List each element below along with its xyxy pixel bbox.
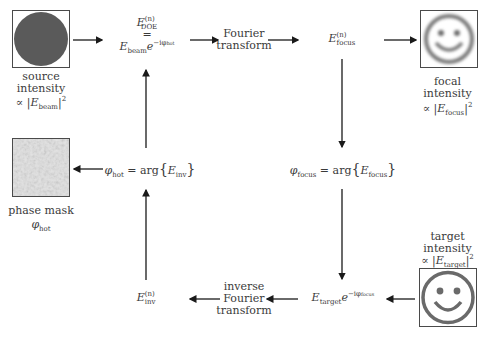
phase-mask-symbol: φhot [0, 219, 82, 231]
source-formula: ∝ |Ebeam|2 [0, 97, 82, 109]
focal-intensity-image [420, 10, 478, 68]
target-field-formula: Etargete−iφfocus [300, 292, 386, 304]
fourier-transform-label: Fourier transform [214, 28, 274, 52]
doe-rhs: Ebeame−iφhot [104, 41, 190, 53]
sharp-smiley-icon [420, 269, 476, 326]
phi-hot-formula: φhot = arg{Einv} [104, 163, 196, 177]
focal-formula: ∝ |Efocus|2 [408, 103, 487, 115]
target-intensity-image [419, 268, 477, 327]
phi-focus-formula: φfocus = arg{Efocus} [288, 163, 398, 177]
inverse-fourier-label: inverse Fourier transform [216, 281, 272, 317]
phase-mask-label: phase mask φhot [0, 205, 82, 231]
source-disc-icon [13, 11, 69, 67]
phase-mask-noise-icon [13, 139, 69, 196]
focus-field: E(n)focus [300, 33, 384, 45]
source-intensity-image [12, 10, 70, 68]
target-formula: ∝ |Etarget|2 [408, 255, 487, 267]
source-label: source intensity ∝ |Ebeam|2 [0, 71, 82, 109]
doe-field-formula: E(n)DOE = Ebeame−iφhot [104, 17, 190, 53]
phase-mask-image [12, 138, 70, 197]
source-label-line2: intensity [0, 83, 82, 95]
target-label: target intensity ∝ |Etarget|2 [408, 231, 487, 267]
inv-field: E(n)inv [120, 292, 172, 304]
blurred-smiley-icon [421, 11, 477, 67]
focal-label: focal intensity ∝ |Efocus|2 [408, 76, 487, 115]
